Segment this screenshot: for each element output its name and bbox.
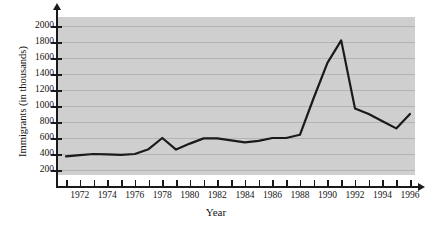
x-tick-mark [107,180,109,188]
gridline [57,106,415,107]
x-tick-mark [135,180,137,188]
gridline [57,42,415,43]
gridline [57,138,415,139]
x-tick-mark [369,180,371,188]
gridline [57,74,415,75]
x-tick-mark [80,180,82,188]
x-tick-mark [190,180,192,188]
y-tick-mark [51,138,62,140]
x-tick-mark [162,180,164,188]
x-tick-mark [66,180,68,188]
x-tick-mark [314,180,316,188]
y-tick-mark [51,26,62,28]
y-tick-mark [51,106,62,108]
x-tick-mark [121,180,123,188]
y-tick-mark [51,122,62,124]
gridline [57,58,415,59]
x-tick-mark [259,180,261,188]
x-tick-mark [231,180,233,188]
x-tick-mark [272,180,274,188]
x-tick-mark [94,180,96,188]
gridline [57,26,415,27]
x-tick-mark [149,180,151,188]
x-tick-mark [410,180,412,188]
gridline [57,90,415,91]
y-tick-mark [51,154,62,156]
y-axis-title: Immigrants (in thousands) [17,22,28,182]
y-tick-mark [51,42,62,44]
x-tick-mark [382,180,384,188]
x-tick-label: 1996 [390,190,430,200]
x-tick-mark [217,180,219,188]
x-axis-line [56,186,419,188]
gridline [57,122,415,123]
chart-figure: 200400600800100012001400160018002000 197… [0,0,432,228]
x-tick-mark [327,180,329,188]
gridline [57,170,415,171]
plot-area [57,17,415,175]
y-tick-mark [51,170,62,172]
x-tick-mark [300,180,302,188]
x-tick-mark [341,180,343,188]
x-tick-mark [396,180,398,188]
x-tick-mark [245,180,247,188]
y-tick-mark [51,58,62,60]
x-tick-mark [286,180,288,188]
x-tick-mark [176,180,178,188]
x-axis-title: Year [0,206,432,218]
y-tick-mark [51,90,62,92]
y-tick-mark [51,74,62,76]
gridline [57,154,415,155]
y-axis-line [56,8,58,188]
x-tick-mark [355,180,357,188]
x-tick-mark [204,180,206,188]
